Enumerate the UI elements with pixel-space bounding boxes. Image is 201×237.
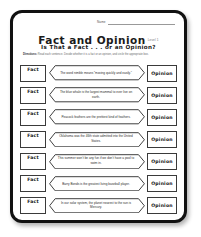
fact-label: Fact [21, 177, 45, 182]
item-row: Fact This summer won’t be any fun if we … [20, 150, 177, 172]
sentence-text: Barry Bonds is the greatest living baseb… [58, 181, 135, 186]
sentence-banner: This summer won’t be any fun if we don’t… [49, 154, 145, 170]
name-write-line[interactable] [108, 23, 175, 25]
sentence-text: The blue whale is the largest mammal to … [58, 90, 135, 100]
item-list: Fact The word nimble means “moving quick… [20, 62, 177, 217]
item-row: Fact In our solar system, the planet nea… [20, 195, 177, 217]
opinion-choice-box-7[interactable]: Opinion [147, 197, 177, 214]
fact-label: Fact [21, 199, 45, 204]
opinion-label: Opinion [148, 159, 176, 164]
fact-choice-box-6[interactable]: Fact [20, 175, 46, 192]
fact-label: Fact [21, 155, 45, 160]
opinion-label: Opinion [148, 71, 176, 76]
fact-choice-box-2[interactable]: Fact [20, 87, 46, 104]
fact-label: Fact [21, 133, 45, 138]
opinion-choice-box-3[interactable]: Opinion [147, 109, 177, 126]
sentence-banner: Oklahoma was the 46th state admitted int… [49, 132, 145, 148]
opinion-label: Opinion [148, 203, 176, 208]
sentence-text: In our solar system, the planet nearest … [58, 201, 135, 211]
sentence-banner: Peacock feathers are the prettiest kind … [49, 109, 145, 125]
directions: Directions: Read each sentence. Decide w… [23, 53, 174, 57]
opinion-label: Opinion [148, 181, 176, 186]
opinion-choice-box-2[interactable]: Opinion [147, 87, 177, 104]
page-subtitle: Is That a Fact . . . or an Opinion? [18, 44, 179, 50]
item-row: Fact The blue whale is the largest mamma… [20, 84, 177, 106]
sentence-text: Oklahoma was the 46th state admitted int… [58, 135, 135, 145]
opinion-choice-box-6[interactable]: Opinion [147, 175, 177, 192]
fact-choice-box-5[interactable]: Fact [20, 153, 46, 170]
directions-text: Read each sentence. Decide whether it is… [37, 53, 149, 56]
sentence-text: The word nimble means “moving quickly an… [58, 71, 135, 76]
sentence-banner: In our solar system, the planet nearest … [49, 198, 145, 214]
opinion-choice-box-5[interactable]: Opinion [147, 153, 177, 170]
fact-label: Fact [21, 67, 45, 72]
sentence-banner: Barry Bonds is the greatest living baseb… [49, 176, 145, 192]
directions-prefix: Directions: [23, 53, 37, 56]
page-title-suffix: Level 1 [148, 38, 159, 42]
name-line: Name [97, 21, 175, 25]
item-row: Fact Barry Bonds is the greatest living … [20, 172, 177, 194]
opinion-label: Opinion [148, 137, 176, 142]
item-row: Fact Peacock feathers are the prettiest … [20, 106, 177, 128]
fact-choice-box-1[interactable]: Fact [20, 65, 46, 82]
name-label: Name [97, 21, 106, 25]
sentence-text: This summer won’t be any fun if we don’t… [58, 157, 135, 167]
item-row: Fact The word nimble means “moving quick… [20, 62, 177, 84]
item-row: Fact Oklahoma was the 46th state admitte… [20, 128, 177, 150]
fact-label: Fact [21, 111, 45, 116]
fact-label: Fact [21, 89, 45, 94]
opinion-label: Opinion [148, 115, 176, 120]
fact-choice-box-3[interactable]: Fact [20, 109, 46, 126]
opinion-label: Opinion [148, 93, 176, 98]
fact-choice-box-4[interactable]: Fact [20, 131, 46, 148]
sentence-text: Peacock feathers are the prettiest kind … [58, 115, 135, 120]
fact-choice-box-7[interactable]: Fact [20, 197, 46, 214]
opinion-choice-box-1[interactable]: Opinion [147, 65, 177, 82]
opinion-choice-box-4[interactable]: Opinion [147, 131, 177, 148]
worksheet-page: Name Fact and OpinionLevel 1 Is That a F… [18, 17, 179, 216]
scanned-page-frame: Name Fact and OpinionLevel 1 Is That a F… [10, 10, 187, 223]
sentence-banner: The blue whale is the largest mammal to … [49, 87, 145, 103]
sentence-banner: The word nimble means “moving quickly an… [49, 65, 145, 81]
